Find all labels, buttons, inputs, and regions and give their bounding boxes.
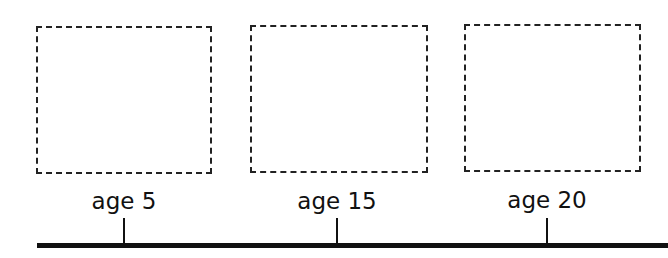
drawing-box-age-15[interactable] — [250, 25, 428, 173]
label-age-5: age 5 — [64, 190, 184, 213]
drawing-box-age-5[interactable] — [36, 26, 212, 174]
tick-age-5 — [123, 218, 125, 245]
tick-age-15 — [336, 218, 338, 245]
tick-age-20 — [546, 218, 548, 245]
label-age-20: age 20 — [487, 189, 607, 212]
label-age-15: age 15 — [277, 190, 397, 213]
drawing-box-age-20[interactable] — [464, 24, 641, 172]
timeline-axis — [37, 243, 668, 248]
